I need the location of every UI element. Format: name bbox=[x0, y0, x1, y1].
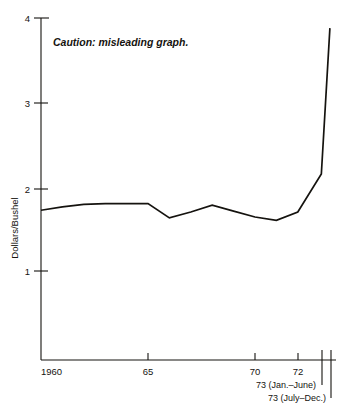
chart-figure: 4 3 2 1 Dollars/Bushel 1960 65 70 72 73 … bbox=[0, 0, 355, 415]
caution-annotation: Caution: misleading graph. bbox=[53, 36, 188, 48]
x-label-73-july-dec: 73 (July–Dec.) bbox=[268, 393, 326, 403]
x-tick-label-1960: 1960 bbox=[41, 366, 62, 377]
x-tick-label-65: 65 bbox=[143, 366, 154, 377]
x-label-73-jan-june: 73 (Jan.–June) bbox=[256, 380, 316, 390]
y-tick-label-2: 2 bbox=[25, 184, 30, 195]
y-tick-label-4: 4 bbox=[25, 13, 30, 24]
y-axis-title: Dollars/Bushel bbox=[9, 197, 20, 258]
line-chart-svg: 4 3 2 1 Dollars/Bushel 1960 65 70 72 73 … bbox=[0, 0, 355, 415]
x-tick-label-72: 72 bbox=[293, 366, 304, 377]
x-tick-label-70: 70 bbox=[250, 366, 261, 377]
price-series-line bbox=[41, 28, 330, 220]
y-tick-label-1: 1 bbox=[25, 266, 30, 277]
y-tick-label-3: 3 bbox=[25, 98, 30, 109]
